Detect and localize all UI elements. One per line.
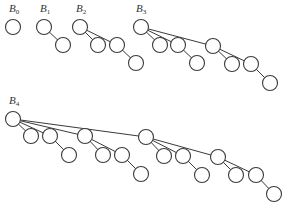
tree-edge <box>223 162 230 169</box>
tree-edge <box>183 50 191 58</box>
tree-b3: B3 <box>134 2 278 91</box>
tree-node <box>139 130 154 145</box>
tree-node <box>171 38 186 53</box>
tree-edge <box>256 69 264 77</box>
tree-node <box>211 150 226 165</box>
tree-node <box>115 148 130 163</box>
tree-label-subscript: 4 <box>16 100 20 108</box>
tree-node <box>195 168 210 183</box>
tree-node <box>110 38 125 53</box>
tree-root-node <box>37 20 52 35</box>
tree-edge <box>85 32 92 39</box>
tree-node <box>78 129 93 144</box>
tree-label: B0 <box>9 2 20 16</box>
tree-edge <box>188 161 196 169</box>
tree-node <box>249 168 264 183</box>
tree-b0: B0 <box>6 2 21 35</box>
tree-node <box>225 57 240 72</box>
tree-node <box>157 149 172 164</box>
tree-label-subscript: 3 <box>143 8 147 16</box>
tree-node <box>91 38 106 53</box>
binomial-trees-diagram: B0B1B2B3B4 <box>0 0 290 213</box>
tree-root-node <box>73 20 88 35</box>
tree-label-subscript: 2 <box>83 8 87 16</box>
tree-label: B2 <box>76 2 87 16</box>
tree-b4: B4 <box>6 94 282 202</box>
tree-node <box>134 167 149 182</box>
tree-node <box>43 129 58 144</box>
tree-root-node <box>6 20 21 35</box>
tree-edge <box>90 141 98 149</box>
tree-label: B3 <box>136 2 147 16</box>
tree-edge <box>55 141 63 149</box>
tree-label-subscript: 1 <box>47 8 51 16</box>
tree-root-node <box>6 112 21 127</box>
tree-node <box>176 149 191 164</box>
tree-node <box>267 187 282 202</box>
tree-edge <box>49 32 57 40</box>
tree-node <box>190 56 205 71</box>
tree-root-node <box>134 20 149 35</box>
tree-node <box>24 129 39 144</box>
tree-edge <box>122 50 130 58</box>
tree-b2: B2 <box>73 2 144 71</box>
tree-node <box>229 168 244 183</box>
tree-node <box>206 39 221 54</box>
tree-node <box>62 148 77 163</box>
tree-node <box>244 57 259 72</box>
tree-label-subscript: 0 <box>16 8 20 16</box>
tree-node <box>263 76 278 91</box>
tree-node <box>129 56 144 71</box>
tree-label: B1 <box>40 2 51 16</box>
tree-node <box>96 148 111 163</box>
tree-node <box>56 38 71 53</box>
tree-node <box>153 38 168 53</box>
tree-edge <box>261 180 269 188</box>
tree-b1: B1 <box>37 2 71 53</box>
tree-label: B4 <box>9 94 20 108</box>
tree-edge <box>151 142 159 150</box>
tree-edge <box>127 160 135 168</box>
tree-edge <box>18 124 25 131</box>
